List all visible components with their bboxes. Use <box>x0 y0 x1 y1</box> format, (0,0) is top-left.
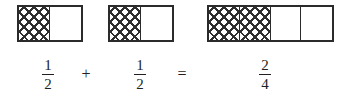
operator-plus: + <box>72 65 100 83</box>
bar-model-first-addend <box>17 5 83 42</box>
fraction-second-addend: 1 2 <box>126 58 154 92</box>
bar-cell-shaded <box>209 7 240 40</box>
fraction-numerator: 1 <box>134 58 146 75</box>
fraction-numerator: 2 <box>259 58 271 75</box>
bar-cell-empty <box>50 7 81 40</box>
fraction-denominator: 2 <box>42 75 54 92</box>
fraction-numerator: 1 <box>42 58 54 75</box>
equals-sign: = <box>177 66 186 82</box>
fraction: 1 2 <box>134 58 146 92</box>
fraction: 2 4 <box>259 58 271 92</box>
fraction: 1 2 <box>42 58 54 92</box>
bar-cell-shaded <box>240 7 271 40</box>
bar-cell-empty <box>141 7 172 40</box>
bar-model-sum <box>207 5 334 42</box>
operator-equals: = <box>168 65 196 83</box>
figure-canvas: 1 2 + 1 2 = 2 4 <box>0 0 350 95</box>
bar-cell-shaded <box>19 7 50 40</box>
fraction-first-addend: 1 2 <box>34 58 62 92</box>
fraction-sum: 2 4 <box>251 58 279 92</box>
fraction-denominator: 2 <box>134 75 146 92</box>
bar-model-second-addend <box>108 5 174 42</box>
plus-sign: + <box>81 66 90 82</box>
bar-cell-empty <box>301 7 332 40</box>
equation-row: 1 2 + 1 2 = 2 4 <box>0 55 350 95</box>
fraction-denominator: 4 <box>259 75 271 92</box>
bar-cell-shaded <box>110 7 141 40</box>
bar-cell-empty <box>271 7 302 40</box>
